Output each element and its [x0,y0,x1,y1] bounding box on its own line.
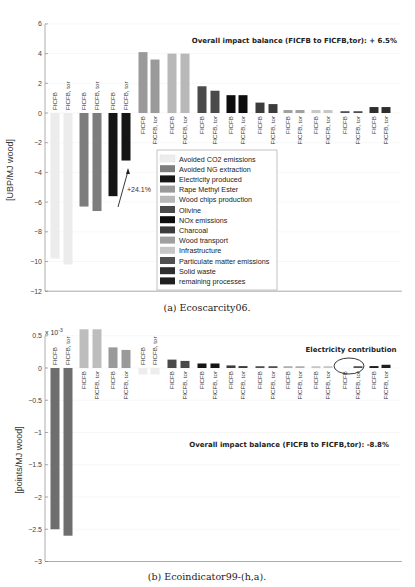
bar [168,360,177,368]
y-tick-label: −6 [34,199,42,206]
y-tick-label: −2 [34,494,42,501]
bar [211,91,220,113]
chart2-electricity-callout: Electricity contribution [306,346,397,354]
bar-category-label: FICFB [168,116,175,134]
legend-swatch [160,267,175,274]
bar-category-label: FICFB [198,116,205,134]
chart2-impact-annotation: Overall impact balance (FICFB to FICFB,t… [189,441,389,449]
legend-swatch [160,155,175,162]
y-tick-label: 2 [38,80,42,87]
bar [122,350,131,368]
bar [51,368,60,529]
bar-category-label: FICFB [341,116,348,134]
legend-label: Avoided NG extraction [179,165,251,174]
chart2-caption: (b) Ecoindicator99-(h,a). [148,571,266,582]
bar [284,366,293,368]
bar [269,104,278,113]
bar-category-label: FICFB, tor [354,116,361,145]
legend-label: Solid waste [179,267,216,276]
y-tick-label: −2.5 [28,526,42,533]
bar-category-label: FICFB, tor [93,81,100,110]
bar-category-label: FICFB [198,371,205,389]
bar-category-label: FICFB, tor [211,116,218,145]
bar-category-label: FICFB [256,116,263,134]
legend-label: Electricity produced [179,175,242,184]
bar [324,366,333,368]
y-tick-label: 6 [38,20,42,27]
bar [151,60,160,113]
bar-category-label: FICFB [312,116,319,134]
bar-category-label: FICFB, tor [181,371,188,400]
bar [296,110,305,113]
chart2-y-axis-label: [points/MJ wood] [14,426,24,494]
bar-category-label: FICFB [139,116,146,134]
bar [296,366,305,368]
bar [51,113,60,259]
bar [211,363,220,368]
bar-category-label: FICFB, tor [181,116,188,145]
bar [168,54,177,113]
bar [239,95,248,113]
bar [198,86,207,113]
bar [80,329,89,368]
bar-category-label: FICFB [139,347,146,365]
legend-swatch [160,237,175,244]
bar [64,368,73,536]
bar [109,113,118,196]
bar-category-label: FICFB, tor [382,116,389,145]
bar-category-label: FICFB [370,371,377,389]
legend-label: Olivine [179,206,201,215]
bar-category-label: FICFB [284,371,291,389]
bar-category-label: FICFB, tor [296,371,303,400]
bar [93,113,102,211]
bar-category-label: FICFB [51,347,58,365]
legend-swatch [160,175,175,182]
bar [324,110,333,113]
y-tick-label: −12 [30,288,42,295]
bar [312,366,321,368]
bar-category-label: FICFB, tor [211,371,218,400]
bar [370,366,379,368]
bar [269,366,278,368]
bar-category-label: FICFB [168,371,175,389]
arrow-head-icon [126,168,130,174]
chart1-caption: (a) Ecoscarcity06. [163,302,250,313]
bar-category-label: FICFB [51,92,58,110]
legend-label: Avoided CO2 emissions [179,155,256,164]
bar [370,107,379,113]
legend-swatch [160,257,175,264]
bar-category-label: FICFB, tor [296,116,303,145]
bar [239,366,248,368]
bar-category-label: FICFB [109,92,116,110]
bar [312,110,321,113]
legend-swatch [160,226,175,233]
figure-canvas: 6420−2−4−6−8−10−12FICFBFICFB, torFICFBFI… [0,0,415,587]
bar-category-label: FICFB, tor [269,371,276,400]
bar-category-label: FICFB, tor [354,371,361,400]
bar-category-label: FICFB, tor [93,371,100,400]
y-tick-label: 0.5 [32,332,42,339]
bar [382,107,391,113]
bar-category-label: FICFB, tor [122,81,129,110]
bar-category-label: FICFB [80,92,87,110]
legend-swatch [160,206,175,213]
legend-label: NOx emissions [179,216,228,225]
bar [109,347,118,368]
chart2-scale-label: x 10-3 [45,327,63,336]
bar [227,95,236,113]
legend-swatch [160,216,175,223]
bar [341,111,350,113]
legend-swatch [160,165,175,172]
legend-swatch [160,186,175,193]
y-tick-label: 4 [38,50,42,57]
bar-category-label: FICFB, tor [239,116,246,145]
y-tick-label: 0 [38,365,42,372]
bar-category-label: FICFB [312,371,319,389]
bar [80,113,89,207]
bar-category-label: FICFB, tor [269,116,276,145]
electricity-callout-ellipse [334,358,364,374]
bar [198,363,207,368]
chart1-impact-annotation: Overall impact balance (FICFB to FICFB,t… [192,37,397,45]
bar-category-label: FICFB, tor [324,116,331,145]
y-tick-label: −8 [34,228,42,235]
